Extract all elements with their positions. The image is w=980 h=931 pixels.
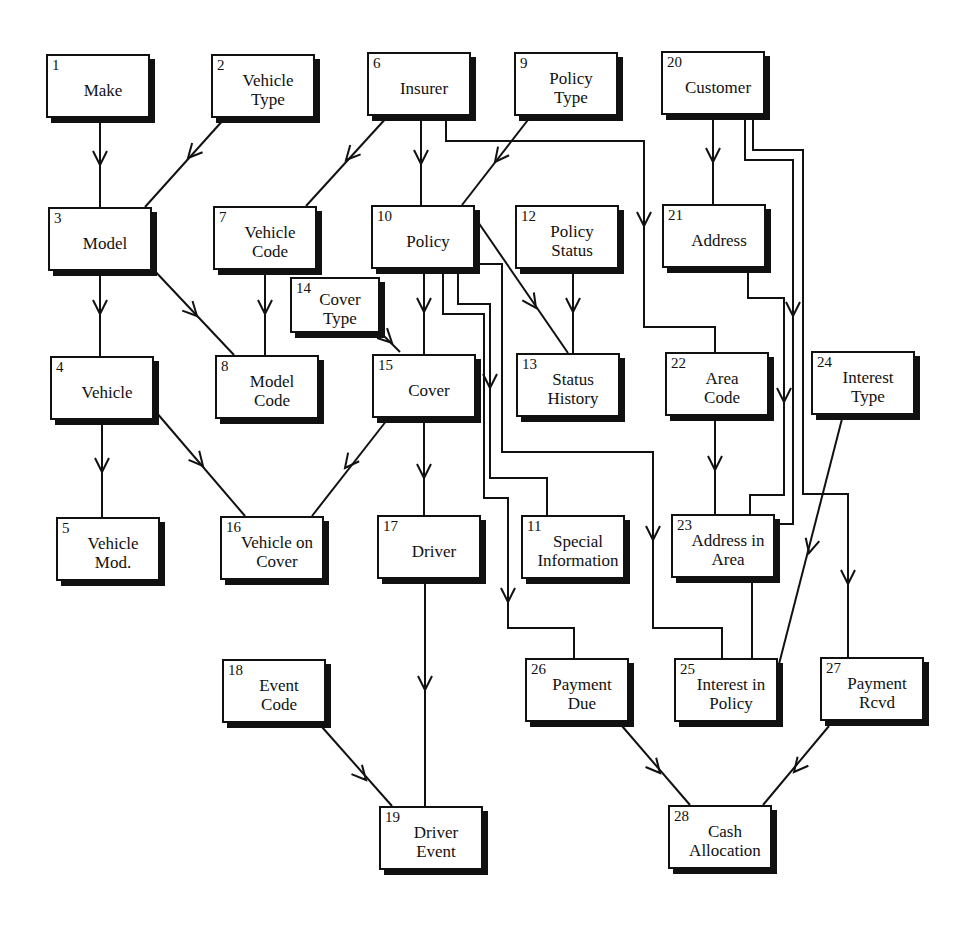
relationship-3-to-8	[152, 268, 234, 355]
entity-box: 13Status History	[516, 353, 620, 417]
entity-box: 26Payment Due	[525, 658, 629, 722]
entity-label: Vehicle Code	[215, 208, 315, 268]
relationship-15-to-17	[417, 420, 431, 515]
entity-label: Interest Type	[813, 353, 913, 413]
entity-box: 6Insurer	[367, 52, 471, 116]
entity-box: 12Policy Status	[515, 205, 619, 269]
relationship-4-to-5	[95, 420, 109, 517]
entity-label: Status History	[518, 355, 618, 415]
entity-label: Interest in Policy	[676, 660, 776, 720]
entity-label: Customer	[663, 53, 763, 113]
relationship-20-to-21	[706, 115, 720, 204]
er-diagram: 1Make2Vehicle Type6Insurer9Policy Type20…	[0, 0, 980, 931]
entity-box: 9Policy Type	[514, 52, 618, 116]
relationship-6-to-10	[414, 116, 428, 205]
entity-box: 3Model	[48, 207, 152, 271]
entity-label: Special Information	[523, 517, 623, 577]
relationship-24-to-25	[778, 415, 843, 668]
entity-label: Address in Area	[673, 516, 773, 576]
entity-box: 22Area Code	[665, 352, 769, 416]
relationship-2-to-3	[145, 118, 225, 207]
entity-label: Vehicle Mod.	[58, 519, 158, 579]
relationship-27-to-28	[763, 726, 829, 805]
entity-box: 19Driver Event	[379, 806, 483, 870]
entity-box: 27Payment Rcvd	[820, 657, 924, 721]
entity-box: 16Vehicle on Cover	[220, 516, 324, 580]
entity-label: Policy	[373, 207, 473, 267]
relationship-6-to-7	[306, 116, 388, 206]
entity-box: 20Customer	[661, 51, 765, 115]
arrowhead-icon	[806, 538, 820, 553]
entity-box: 28Cash Allocation	[668, 805, 772, 869]
entity-box: 23Address in Area	[671, 514, 775, 578]
relationship-14-to-15	[377, 328, 400, 352]
entity-box: 10Policy	[371, 205, 475, 269]
relationship-22-to-23	[708, 416, 722, 514]
relationship-1-to-3	[93, 118, 107, 207]
entity-box: 14Cover Type	[290, 277, 380, 333]
arrowhead-icon	[345, 453, 359, 468]
relationship-17-to-19	[418, 579, 432, 806]
relationship-12-to-13	[566, 269, 580, 353]
entity-label: Policy Status	[517, 207, 617, 267]
entity-box: 2Vehicle Type	[211, 54, 315, 118]
entity-label: Vehicle	[52, 358, 152, 418]
entity-label: Model	[50, 209, 150, 269]
entity-box: 25Interest in Policy	[674, 658, 778, 722]
entity-box: 11Special Information	[521, 515, 625, 579]
entity-label: Area Code	[667, 354, 767, 414]
entity-label: Cash Allocation	[670, 807, 770, 867]
relationship-18-to-19	[322, 727, 392, 806]
entity-label: Cover	[374, 356, 474, 416]
entity-label: Cover Type	[292, 279, 378, 331]
entity-box: 8Model Code	[215, 355, 319, 419]
entity-label: Driver	[379, 517, 479, 577]
entity-label: Address	[664, 206, 764, 266]
relationship-26-to-28	[622, 726, 690, 805]
entity-label: Driver Event	[381, 808, 481, 868]
relationship-7-to-8	[258, 270, 272, 355]
relationship-10-to-25	[475, 264, 722, 658]
entity-box: 24Interest Type	[811, 351, 915, 415]
relationship-9-to-10	[462, 116, 531, 205]
entity-label: Vehicle on Cover	[222, 518, 322, 578]
entity-box: 15Cover	[372, 354, 476, 418]
entity-box: 5Vehicle Mod.	[56, 517, 160, 581]
entity-label: Vehicle Type	[213, 56, 313, 116]
relationship-15-to-16	[312, 420, 387, 516]
entity-label: Event Code	[224, 661, 324, 721]
relationship-4-to-16	[156, 412, 245, 516]
arrowhead-icon	[646, 758, 660, 773]
relationship-lines	[0, 0, 980, 931]
entity-label: Policy Type	[516, 54, 616, 114]
entity-box: 18Event Code	[222, 659, 326, 723]
relationship-3-to-4	[93, 271, 107, 356]
relationship-10-to-26	[443, 269, 574, 658]
entity-box: 4Vehicle	[50, 356, 154, 420]
entity-box: 17Driver	[377, 515, 481, 579]
entity-box: 21Address	[662, 204, 766, 268]
relationship-10-to-15	[417, 269, 431, 354]
entity-label: Payment Due	[527, 660, 627, 720]
entity-label: Make	[48, 56, 148, 116]
entity-label: Payment Rcvd	[822, 659, 922, 719]
entity-box: 1Make	[46, 54, 150, 118]
entity-box: 7Vehicle Code	[213, 206, 317, 270]
entity-label: Model Code	[217, 357, 317, 417]
entity-label: Insurer	[369, 54, 469, 114]
